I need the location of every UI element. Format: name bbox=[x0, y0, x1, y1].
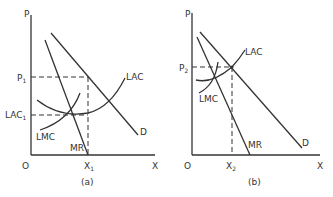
demand-curve-a bbox=[51, 33, 138, 135]
x-axis-label-a: X bbox=[152, 161, 158, 171]
p2-label: P2 bbox=[179, 63, 188, 74]
lac-curve-a bbox=[37, 78, 125, 114]
d-label-b: D bbox=[302, 138, 309, 148]
lac-label-b: LAC bbox=[245, 47, 263, 57]
d-label-a: D bbox=[140, 127, 147, 137]
equilibrium-point-b bbox=[231, 66, 234, 69]
origin-label-a: O bbox=[22, 161, 29, 171]
lmc-label-b: LMC bbox=[199, 94, 218, 104]
y-axis-label-b: P bbox=[185, 9, 191, 19]
panel-a: P X O P1 LAC1 X1 LAC LMC MR D (a) bbox=[5, 9, 158, 187]
y-axis-label-a: P bbox=[24, 9, 30, 19]
lac-label-a: LAC bbox=[126, 72, 144, 82]
panel-b: P X O P2 X2 LAC LMC MR D (b) bbox=[179, 9, 323, 187]
mr-label-a: MR bbox=[70, 143, 84, 153]
x-axis-label-b: X bbox=[317, 161, 323, 171]
caption-a: (a) bbox=[81, 177, 94, 187]
lmc-label-a: LMC bbox=[36, 132, 55, 142]
mr-label-b: MR bbox=[248, 140, 262, 150]
x2-label: X2 bbox=[226, 161, 236, 172]
lac1-label: LAC1 bbox=[5, 110, 27, 121]
diagram-canvas: P X O P1 LAC1 X1 LAC LMC MR D (a) P X O … bbox=[0, 0, 333, 197]
p1-label: P1 bbox=[17, 73, 26, 84]
caption-b: (b) bbox=[248, 177, 261, 187]
origin-label-b: O bbox=[184, 161, 191, 171]
x1-label: X1 bbox=[84, 161, 94, 172]
